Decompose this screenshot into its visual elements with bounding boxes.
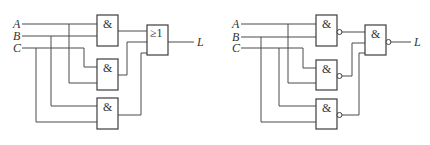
output-label-l: L	[196, 35, 204, 49]
left-circuit: A B C & & & ≥1 L	[12, 15, 204, 129]
wire-gate2-to-final	[342, 43, 365, 76]
wire-c	[22, 48, 97, 122]
wire-gate3-to-or	[118, 53, 147, 115]
nand-gate-1-symbol: &	[322, 17, 332, 31]
inverter-bubble-output	[386, 40, 391, 45]
input-label-c: C	[232, 41, 241, 55]
and-gate-2-symbol: &	[103, 61, 113, 75]
wire-a	[22, 24, 97, 83]
or-gate-symbol: ≥1	[150, 26, 163, 40]
inverter-bubble-3	[337, 113, 342, 118]
wire-gate2-to-or	[118, 42, 147, 75]
wire-c	[241, 48, 316, 106]
final-nand-gate-symbol: &	[371, 27, 381, 41]
input-label-c: C	[13, 41, 22, 55]
right-circuit: A B C & & & & L	[231, 15, 421, 129]
wire-b	[22, 36, 97, 106]
inverter-bubble-2	[337, 74, 342, 79]
and-gate-1-symbol: &	[103, 17, 113, 31]
output-label-l: L	[413, 35, 421, 49]
nand-gate-3-symbol: &	[322, 101, 332, 115]
nand-gate-2-symbol: &	[322, 62, 332, 76]
and-gate-3-symbol: &	[103, 100, 113, 114]
wire-gate3-to-final	[342, 53, 365, 115]
logic-circuits-diagram: A B C & & & ≥1 L A B C &	[0, 0, 430, 145]
inverter-bubble-1	[337, 30, 342, 35]
input-label-a: A	[231, 17, 240, 31]
